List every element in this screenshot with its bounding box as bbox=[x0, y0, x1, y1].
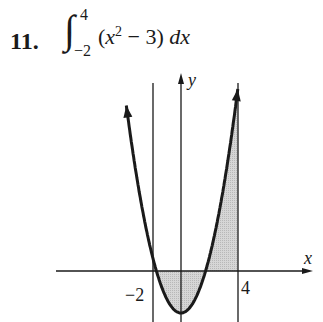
y-axis-label: y bbox=[186, 70, 196, 90]
shaded-region bbox=[153, 89, 238, 313]
tick-label-4: 4 bbox=[241, 278, 250, 298]
graph: y x −2 4 bbox=[0, 0, 323, 322]
tick-label-neg2: −2 bbox=[125, 285, 144, 305]
x-axis-label: x bbox=[303, 248, 312, 268]
y-axis-arrow-icon bbox=[178, 73, 184, 84]
x-axis-arrow-icon bbox=[302, 268, 313, 274]
